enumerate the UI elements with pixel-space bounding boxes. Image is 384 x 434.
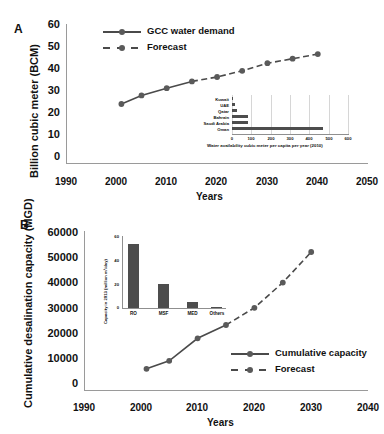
inset-a-xtick-600: 600 <box>340 136 356 141</box>
inset-b-label-others: Others <box>206 311 228 316</box>
inset-a-label-saudi-arabia: Saudi Arabia <box>178 121 229 126</box>
inset-a-xtick-100: 100 <box>243 136 259 141</box>
legend-key-solid-icon <box>101 25 143 39</box>
inset-a-xtick-300: 300 <box>282 136 298 141</box>
legend-key-dashed-icon <box>229 363 271 377</box>
panel-b: B Cumulative desalination capacity (MGD)… <box>0 212 377 434</box>
panel-a-series-forecast-line <box>192 54 318 81</box>
inset-b-label-ro: RO <box>124 311 143 316</box>
inset-b-bar-msf <box>158 284 169 308</box>
inset-a-label-uae: UAE <box>178 103 229 108</box>
inset-b-x-axis-line <box>122 308 226 309</box>
inset-b-ytick-20: 20 <box>106 282 119 287</box>
panel-a-legend-label-demand: GCC water demand <box>147 25 235 36</box>
legend-key-dashed-icon <box>101 41 143 55</box>
inset-a-gridline-600 <box>348 95 349 135</box>
panel-b-series-capacity-line <box>147 325 227 369</box>
panel-b-series-forecast-line <box>226 252 311 325</box>
inset-b-ytick-60: 60 <box>106 234 119 239</box>
inset-a-bar-bahrain <box>232 115 248 118</box>
inset-b-ytick-40: 40 <box>106 258 119 263</box>
legend-key-solid-icon <box>229 347 271 361</box>
inset-a-label-bahrain: Bahrain <box>178 115 229 120</box>
panel-b-inset: Capacity in 2013 (million m³/day) 60 40 … <box>98 230 223 330</box>
inset-b-bar-ro <box>128 244 139 308</box>
panel-b-legend-label-forecast: Forecast <box>275 363 315 374</box>
inset-a-bar-saudi-arabia <box>232 121 248 124</box>
inset-b-label-msf: MSF <box>154 311 173 316</box>
inset-a-caption: Water availability cubic meter per capit… <box>207 143 323 148</box>
inset-a-xtick-0: 0 <box>224 136 240 141</box>
inset-a-gridline-500 <box>329 95 330 135</box>
inset-a-label-qatar: Qatar <box>178 109 229 114</box>
inset-a-label-kuwait: Kuwait <box>178 97 229 102</box>
panel-a-inset: Kuwait UAE Qatar Bahrain Saudi Arabia Om… <box>178 95 368 151</box>
inset-a-bar-qatar <box>232 109 237 112</box>
inset-a-xtick-400: 400 <box>301 136 317 141</box>
inset-a-xtick-500: 500 <box>321 136 337 141</box>
inset-b-label-med: MED <box>183 311 202 316</box>
panel-b-legend-label-capacity: Cumulative capacity <box>275 347 367 358</box>
panel-a-markers-forecast <box>214 51 320 80</box>
inset-a-label-oman: Oman <box>178 127 229 132</box>
inset-a-xtick-200: 200 <box>263 136 279 141</box>
inset-b-y-axis-line <box>122 236 123 308</box>
inset-b-ytick-0: 0 <box>106 305 119 310</box>
inset-b-y-axis-title: Capacity in 2013 (million m³/day) <box>103 259 108 324</box>
panel-a: A Billion cubic meter (BCM) 60 50 40 30 … <box>0 0 377 212</box>
panel-a-legend-label-forecast: Forecast <box>147 41 187 52</box>
inset-a-bar-oman <box>232 127 323 130</box>
inset-a-bar-uae <box>232 103 235 106</box>
inset-a-x-axis-line <box>232 134 349 135</box>
inset-a-bar-kuwait <box>232 97 233 100</box>
